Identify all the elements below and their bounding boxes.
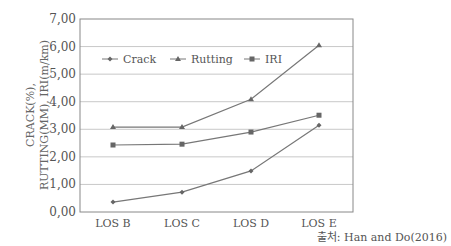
- legend-label: IRI: [265, 53, 282, 66]
- data-series: [110, 42, 322, 204]
- diamond-marker-icon: [108, 57, 113, 62]
- y-tick-label: 7,00: [49, 12, 76, 26]
- square-marker-icon: [250, 57, 255, 62]
- x-tick-label: LOS D: [233, 217, 269, 230]
- y-tick-label: 0,00: [49, 205, 76, 219]
- y-tick-label: 3,00: [49, 122, 76, 136]
- line-chart: 0,001,002,003,004,005,006,007,00 LOS BLO…: [0, 0, 451, 246]
- x-tick-label: LOS C: [164, 217, 200, 230]
- plot-frame: [80, 19, 353, 212]
- legend-item-iri: IRI: [244, 53, 282, 66]
- square-marker-icon: [249, 130, 254, 135]
- y-axis-label-line: CRACK(%),: [24, 83, 37, 147]
- gridlines: [80, 47, 353, 185]
- legend-label: Rutting: [191, 53, 233, 66]
- diamond-marker-icon: [111, 200, 116, 205]
- x-tick-label: LOS B: [95, 217, 130, 230]
- y-tick-label: 6,00: [49, 40, 76, 54]
- y-axis-label: CRACK(%),RUTTING(MM), IRI(m/km): [24, 40, 51, 190]
- square-marker-icon: [111, 143, 116, 148]
- y-tick-label: 5,00: [49, 67, 76, 81]
- legend-item-rutting: Rutting: [170, 53, 233, 66]
- legend: CrackRuttingIRI: [102, 53, 282, 66]
- legend-label: Crack: [123, 53, 156, 66]
- y-axis-ticks: 0,001,002,003,004,005,006,007,00: [49, 12, 76, 219]
- y-axis-label-line: RUTTING(MM), IRI(m/km): [38, 40, 51, 190]
- series-crack: [111, 123, 322, 205]
- square-marker-icon: [180, 142, 185, 147]
- triangle-marker-icon: [316, 42, 322, 47]
- x-axis-ticks: LOS BLOS CLOS DLOS E: [95, 217, 336, 230]
- y-tick-label: 1,00: [49, 177, 76, 191]
- diamond-marker-icon: [180, 190, 185, 195]
- source-note: 출처: Han and Do(2016): [317, 228, 447, 244]
- series-iri: [111, 113, 322, 148]
- square-marker-icon: [317, 113, 322, 118]
- legend-item-crack: Crack: [102, 53, 156, 66]
- y-tick-label: 4,00: [49, 95, 76, 109]
- y-tick-label: 2,00: [49, 150, 76, 164]
